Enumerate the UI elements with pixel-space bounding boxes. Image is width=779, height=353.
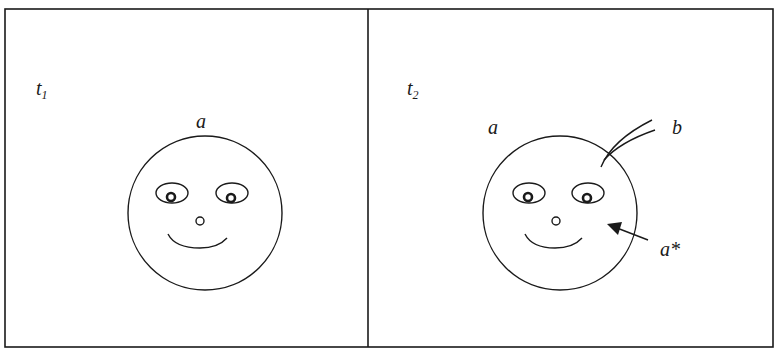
nose [552, 217, 560, 225]
left-pupil [167, 193, 175, 201]
face-a [483, 136, 637, 290]
outer-frame [5, 9, 773, 347]
right-pupil [583, 194, 591, 202]
intruder-label-b: b [672, 116, 682, 138]
two-panel-diagram: t1 a t2 a b a* [0, 0, 779, 353]
arrowhead-icon [607, 222, 622, 235]
face-label-a: a [488, 116, 498, 138]
face-a [128, 136, 282, 290]
panel-left: t1 a [36, 77, 282, 290]
intruder-b-lines [601, 120, 655, 167]
face-outline [483, 136, 637, 290]
arrow-label-a-star: a* [660, 238, 680, 260]
smile [168, 234, 227, 248]
smile [525, 234, 582, 248]
time-label-t1: t1 [36, 77, 48, 102]
panel-right: t2 a b a* [407, 77, 682, 290]
time-label-t2: t2 [407, 77, 419, 102]
nose [196, 217, 204, 225]
arrow-a-star [607, 222, 648, 240]
face-label-a: a [196, 110, 206, 132]
left-pupil [524, 193, 532, 201]
face-outline [128, 136, 282, 290]
right-pupil [227, 194, 235, 202]
